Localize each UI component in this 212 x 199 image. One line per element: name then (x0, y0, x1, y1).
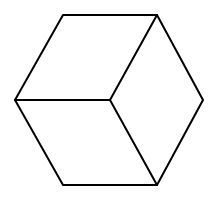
inner-edge-bottom-right (110, 100, 157, 185)
cube-diagram (0, 0, 212, 199)
inner-edge-top-right (110, 15, 157, 100)
cube-icon (0, 0, 212, 199)
